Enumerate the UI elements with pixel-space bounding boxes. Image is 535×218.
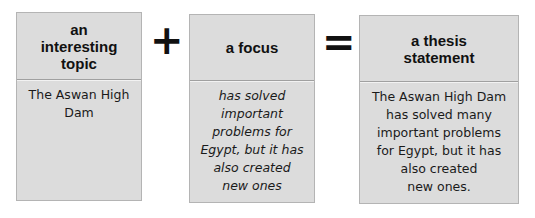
header-line: an (70, 21, 88, 38)
topic-box-body: The Aswan High Dam (17, 80, 141, 200)
topic-box: an interesting topic The Aswan High Dam (16, 12, 142, 201)
body-line: also created (190, 159, 314, 177)
body-line: has solved (190, 87, 314, 105)
equals-operator: = (322, 22, 356, 62)
body-line: problems for (190, 123, 314, 141)
focus-box-header: a focus (190, 15, 314, 81)
body-line: important problems (360, 124, 518, 142)
header-line: statement (404, 49, 475, 66)
body-line: important (190, 105, 314, 123)
body-line: The Aswan High (17, 86, 141, 104)
thesis-box: a thesis statement The Aswan High Dam ha… (359, 15, 519, 204)
focus-box-body: has solved important problems for Egypt,… (190, 81, 314, 202)
thesis-box-body: The Aswan High Dam has solved many impor… (360, 82, 518, 203)
focus-box: a focus has solved important problems fo… (189, 14, 315, 203)
header-line: a thesis (411, 32, 467, 49)
header-line: a focus (226, 39, 279, 56)
body-line: has solved many (360, 106, 518, 124)
body-line: Dam (17, 104, 141, 122)
header-line: interesting (41, 38, 118, 55)
thesis-box-header: a thesis statement (360, 16, 518, 82)
body-line: new ones (190, 177, 314, 195)
body-line: Egypt, but it has (190, 141, 314, 159)
body-line: The Aswan High Dam (360, 88, 518, 106)
header-line: topic (61, 55, 97, 72)
topic-box-header: an interesting topic (17, 13, 141, 80)
body-line: also created (360, 160, 518, 178)
plus-operator: + (150, 20, 184, 60)
body-line: new ones. (360, 178, 518, 196)
body-line: for Egypt, but it has (360, 142, 518, 160)
